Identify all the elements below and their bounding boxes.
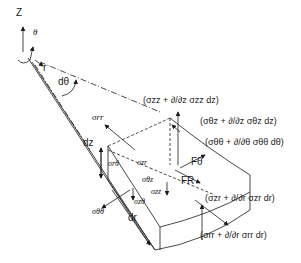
- dr-label: dr: [128, 213, 137, 223]
- z-axis-label: Z: [16, 8, 22, 18]
- sigma-rtheta-label: σrθ: [108, 160, 119, 168]
- dtheta-label: dθ: [58, 77, 69, 87]
- f-r-label: FR: [181, 176, 194, 186]
- theta-axis-label: θ: [33, 28, 37, 37]
- expr-zz-plus: (σzz + ∂/∂z σzz dz): [143, 96, 219, 105]
- expr-rr-plus: (σrr + ∂/∂r σrr dr): [200, 231, 267, 240]
- r-axis-label: r: [43, 63, 46, 73]
- dz-label: dz: [83, 138, 94, 148]
- sigma-rr-label: σrr: [92, 113, 103, 122]
- sigma-thetatheta-label: σθθ: [92, 208, 104, 216]
- cylindrical-stress-diagram: Z θ r dθ dz dr σrr σrθ σzr σθz σzz σzθ σ…: [0, 0, 301, 263]
- expr-thetaz-plus: (σθz + ∂/∂z σθz dz): [200, 117, 277, 126]
- diagram-lines: [0, 0, 301, 263]
- sigma-ztheta-label: σzθ: [134, 198, 145, 206]
- f-theta-label: Fθ: [191, 157, 203, 167]
- sigma-zz-label: σzz: [151, 188, 161, 196]
- sigma-thetaz-label: σθz: [142, 176, 153, 184]
- expr-zr-plus: (σzr + ∂/∂r σzr dr): [205, 194, 275, 203]
- sigma-zr-label: σzr: [137, 159, 147, 167]
- expr-thetatheta-plus: (σθθ + ∂/∂θ σθθ dθ): [205, 138, 284, 147]
